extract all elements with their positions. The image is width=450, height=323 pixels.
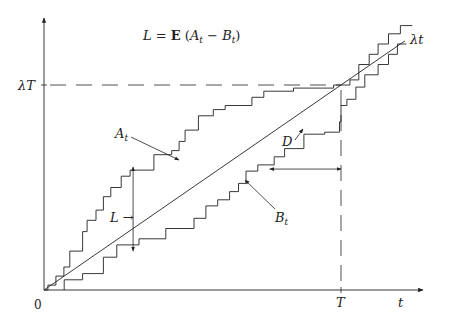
formula: L = E (At − Bt) [142,28,240,45]
B-t-staircase [64,44,406,290]
L-marker-label: L → [109,210,134,225]
D-pointer-arrow [295,129,303,140]
lambda-t-label: λt [409,32,424,47]
D-marker-label: D [281,134,293,149]
A-t-staircase [44,26,412,290]
lambda-T-label: λT [17,78,36,93]
B-t-pointer-arrow [245,180,275,209]
A-t-pointer-arrow [131,137,179,160]
lambda-t-line [44,41,405,290]
origin-label: 0 [34,298,42,312]
x-axis-label-t: t [398,295,404,310]
A-t-label: At [114,126,128,143]
B-t-label: Bt [274,210,289,227]
T-tick-label: T [336,295,346,310]
queue-diagram: L = E (At − Bt) 0 t T λT λt At Bt L → D [0,0,450,323]
